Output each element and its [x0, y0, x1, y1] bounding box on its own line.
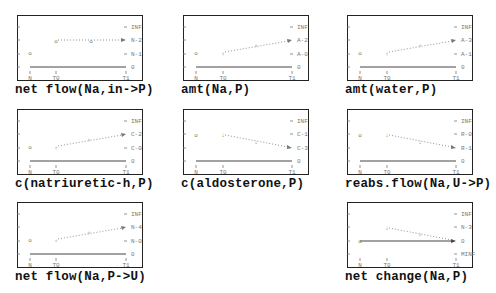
- x-label: N: [194, 75, 198, 81]
- x-label: N: [28, 262, 32, 268]
- panel-title: net flow(Na,P->U): [15, 270, 146, 284]
- y-label: 0: [297, 158, 301, 165]
- y-label: MINF: [461, 251, 476, 258]
- y-label: A-2: [297, 37, 308, 44]
- y-label: INF: [297, 24, 308, 31]
- x-label: N: [358, 169, 362, 175]
- svg-text:o: o: [358, 238, 362, 245]
- panel-title: amt(Na,P): [181, 83, 250, 97]
- y-label: R-1: [461, 145, 472, 152]
- x-label: T0: [219, 169, 227, 175]
- y-label: INF: [131, 118, 142, 125]
- x-label: T1: [288, 75, 296, 81]
- svg-text:↑: ↑: [54, 145, 58, 152]
- qualitative-plot: o ↑ ↑ INF C-2 C-0 0 N T0 T1: [17, 109, 177, 175]
- panel-net-change-na-p: o ↓ ↓ INF N-3 0 MINF N T0 T1 net change(…: [347, 202, 496, 292]
- panel-net-flow-na-in-p: o o o INF N-2 N-1 0 N T0 T1 net flow(Na,…: [17, 15, 177, 105]
- x-label: N: [358, 75, 362, 81]
- x-label: N: [358, 262, 362, 268]
- y-label: INF: [131, 211, 142, 218]
- panel-title: net flow(Na,in->P): [15, 83, 154, 97]
- y-label: A-1: [461, 51, 472, 58]
- svg-text:o: o: [358, 132, 362, 139]
- y-label: 0: [131, 251, 135, 258]
- y-label: 0: [461, 158, 465, 165]
- x-label: T1: [122, 169, 130, 175]
- panel-reabs-flow-na-u-p: o ↓ ↓ INF R-0 R-1 0 N T0 T1 reabs.flow(N…: [347, 109, 496, 199]
- y-label: N-3: [461, 224, 472, 231]
- y-label: INF: [461, 24, 472, 31]
- x-label: T1: [452, 262, 460, 268]
- y-label: N-2: [131, 37, 142, 44]
- y-label: N-0: [131, 238, 142, 245]
- x-label: N: [28, 169, 32, 175]
- x-label: T0: [383, 262, 391, 268]
- x-label: T1: [122, 262, 130, 268]
- svg-text:o: o: [28, 50, 32, 57]
- svg-text:↑: ↑: [385, 51, 389, 58]
- y-label: C-1: [297, 131, 308, 138]
- svg-text:↓: ↓: [418, 231, 422, 238]
- x-label: N: [28, 75, 32, 81]
- qualitative-plot: o ↓ ↓ INF N-3 0 MINF N T0 T1: [347, 202, 496, 268]
- x-label: T0: [52, 262, 60, 268]
- y-label: N-1: [131, 51, 142, 58]
- qualitative-plot: o ↑ ↑ INF A-2 A-0 0 N T0 T1: [183, 15, 343, 81]
- panel-amt-water-p: o ↑ ↑ INF A-3 A-1 0 N T0 T1 amt(water,P): [347, 15, 496, 105]
- y-label: INF: [131, 24, 142, 31]
- svg-text:↓: ↓: [418, 139, 422, 146]
- y-label: INF: [297, 118, 308, 125]
- panel-title: amt(water,P): [345, 83, 437, 97]
- svg-text:↓: ↓: [385, 132, 389, 139]
- panel-title: c(natriuretic-h,P): [15, 177, 154, 191]
- panel-c-aldosterone-p: o ↓ ↓ INF C-1 C-3 0 N T0 T1 c(aldosteron…: [183, 109, 343, 199]
- y-label: 0: [461, 64, 465, 71]
- y-label: 0: [297, 64, 301, 71]
- svg-text:↓: ↓: [254, 139, 258, 146]
- y-label: A-0: [297, 51, 308, 58]
- y-label: 0: [131, 64, 135, 71]
- x-label: T1: [122, 75, 130, 81]
- x-label: T0: [52, 169, 60, 175]
- y-label: INF: [461, 211, 472, 218]
- x-label: N: [194, 169, 198, 175]
- svg-text:↑: ↑: [221, 51, 225, 58]
- y-label: INF: [461, 118, 472, 125]
- svg-text:o: o: [28, 144, 32, 151]
- y-label: R-0: [461, 131, 472, 138]
- y-label: C-0: [131, 145, 142, 152]
- qualitative-plot: o ↓ ↓ INF C-1 C-3 0 N T0 T1: [183, 109, 343, 175]
- qualitative-plot: o ↑ ↑ INF N-4 N-0 0 N T0 T1: [17, 202, 177, 268]
- qualitative-plot: o ↑ ↑ INF A-3 A-1 0 N T0 T1: [347, 15, 496, 81]
- panel-amt-na-p: o ↑ ↑ INF A-2 A-0 0 N T0 T1 amt(Na,P): [183, 15, 343, 105]
- panel-title: c(aldosterone,P): [181, 177, 304, 191]
- x-label: T1: [452, 169, 460, 175]
- panel-c-natriuretic-h-p: o ↑ ↑ INF C-2 C-0 0 N T0 T1 c(natriureti…: [17, 109, 177, 199]
- panel-title: net change(Na,P): [345, 270, 468, 284]
- y-label: C-3: [297, 145, 308, 152]
- svg-text:↓: ↓: [385, 225, 389, 232]
- svg-text:o: o: [54, 38, 58, 45]
- qualitative-plot: o o o INF N-2 N-1 0 N T0 T1: [17, 15, 177, 81]
- svg-text:↓: ↓: [221, 132, 225, 139]
- y-label: N-4: [131, 224, 142, 231]
- y-label: 0: [461, 238, 465, 245]
- svg-text:o: o: [89, 38, 93, 45]
- svg-text:o: o: [194, 132, 198, 139]
- svg-text:↑: ↑: [54, 238, 58, 245]
- panel-title: reabs.flow(Na,U->P): [345, 177, 491, 191]
- qualitative-plot: o ↓ ↓ INF R-0 R-1 0 N T0 T1: [347, 109, 496, 175]
- x-label: T1: [288, 169, 296, 175]
- svg-text:o: o: [358, 50, 362, 57]
- y-label: 0: [131, 158, 135, 165]
- x-label: T0: [52, 75, 60, 81]
- x-label: T0: [219, 75, 227, 81]
- panel-net-flow-na-p-u: o ↑ ↑ INF N-4 N-0 0 N T0 T1 net flow(Na,…: [17, 202, 177, 292]
- x-label: T0: [383, 169, 391, 175]
- x-label: T1: [452, 75, 460, 81]
- svg-text:o: o: [28, 237, 32, 244]
- y-label: C-2: [131, 131, 142, 138]
- x-label: T0: [383, 75, 391, 81]
- y-label: A-3: [461, 37, 472, 44]
- svg-text:o: o: [194, 50, 198, 57]
